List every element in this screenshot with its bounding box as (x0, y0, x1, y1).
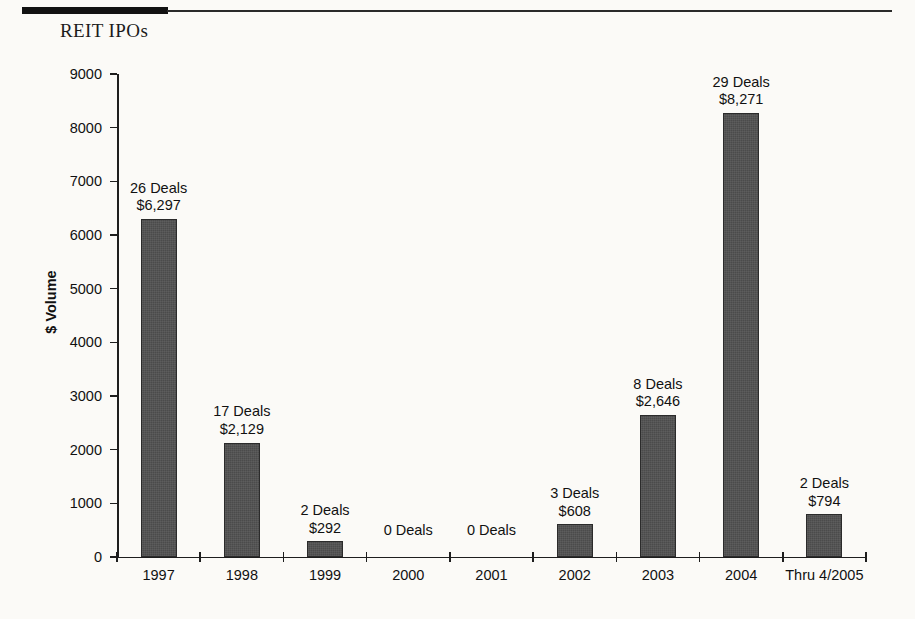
y-tick-label: 4000 (56, 335, 102, 349)
y-tick-label: 6000 (56, 228, 102, 242)
x-tick (782, 552, 784, 562)
bar-label-amount: $8,271 (671, 91, 811, 109)
bar-label-deals: 2 Deals (255, 502, 395, 520)
bar-1999[interactable] (307, 541, 343, 557)
y-axis-line (117, 74, 119, 558)
x-tick (199, 552, 201, 562)
y-tick (110, 449, 117, 451)
x-tick (449, 552, 451, 562)
y-tick (110, 73, 117, 75)
bar-label-thru-4-2005: 2 Deals$794 (754, 475, 894, 510)
y-tick-label: 0 (56, 550, 102, 564)
bar-2003[interactable] (640, 415, 676, 557)
bar-label-amount: $608 (505, 503, 645, 521)
y-tick (110, 503, 117, 505)
y-tick-label: 5000 (56, 282, 102, 296)
y-tick (110, 395, 117, 397)
x-tick (532, 552, 534, 562)
bar-label-amount: $794 (754, 493, 894, 511)
bar-label-deals: 17 Deals (172, 403, 312, 421)
bar-label-deals: 3 Deals (505, 485, 645, 503)
bar-label-amount: $2,129 (172, 421, 312, 439)
bar-1997[interactable] (141, 219, 177, 557)
x-tick (283, 552, 285, 562)
x-tick (616, 552, 618, 562)
y-tick (110, 234, 117, 236)
bar-label-amount: $2,646 (588, 393, 728, 411)
y-tick (110, 342, 117, 344)
x-tick (865, 552, 867, 562)
y-tick-label: 2000 (56, 443, 102, 457)
x-tick-label: Thru 4/2005 (764, 568, 884, 584)
bar-label-deals: 29 Deals (671, 74, 811, 92)
x-tick (366, 552, 368, 562)
bar-thru-4-2005[interactable] (806, 514, 842, 557)
bar-label-deals: 0 Deals (422, 522, 562, 540)
y-tick-label: 3000 (56, 389, 102, 403)
y-tick (110, 288, 117, 290)
bar-label-1997: 26 Deals$6,297 (89, 180, 229, 215)
bar-2002[interactable] (557, 524, 593, 557)
bar-label-2003: 8 Deals$2,646 (588, 376, 728, 411)
bar-label-1998: 17 Deals$2,129 (172, 403, 312, 438)
y-tick-label: 1000 (56, 496, 102, 510)
bar-label-2004: 29 Deals$8,271 (671, 74, 811, 109)
bar-label-2002: 3 Deals$608 (505, 485, 645, 520)
y-tick (110, 127, 117, 129)
bar-1998[interactable] (224, 443, 260, 557)
bar-label-deals: 8 Deals (588, 376, 728, 394)
bar-label-amount: $6,297 (89, 197, 229, 215)
y-tick-label: 9000 (56, 67, 102, 81)
bar-chart-plot: $ Volume 0100020003000400050006000700080… (0, 0, 915, 619)
y-tick-label: 8000 (56, 121, 102, 135)
chart-page: REIT IPOs $ Volume 010002000300040005000… (0, 0, 915, 619)
bar-label-deals: 26 Deals (89, 180, 229, 198)
bar-label-deals: 2 Deals (754, 475, 894, 493)
x-tick (699, 552, 701, 562)
bar-label-2001: 0 Deals (422, 522, 562, 540)
x-tick (116, 552, 118, 562)
